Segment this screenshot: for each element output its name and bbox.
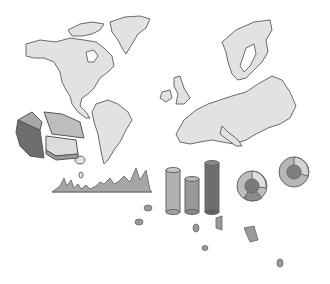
donut-chart-1 (237, 171, 267, 201)
cylinder-bar-chart (166, 161, 219, 215)
great-britain-shape (174, 76, 190, 104)
greenland-shape (110, 16, 150, 54)
island-shape (79, 172, 83, 178)
map-chart-illustration (0, 0, 330, 284)
donut-chart-2 (279, 157, 309, 187)
area-line-chart (52, 168, 152, 192)
ireland-shape (160, 90, 172, 102)
illustration-svg (0, 0, 330, 284)
pie-chart-3d (16, 112, 84, 160)
europe-shape (176, 76, 296, 144)
arctic-islands-shape (68, 22, 104, 36)
south-america-shape (92, 100, 132, 164)
